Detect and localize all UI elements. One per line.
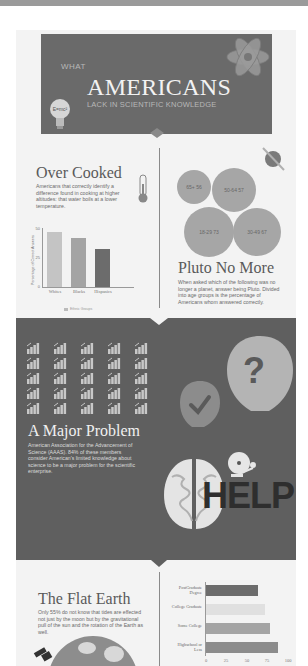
x-tick: 50 <box>241 658 253 663</box>
header-eyebrow: WHAT <box>61 62 86 71</box>
header-subtitle: LACK IN SCIENTIFIC KNOWLEDGE <box>87 100 216 109</box>
y-axis-label: Percentage of Correct Answers <box>31 235 35 285</box>
help-text: HELP <box>202 475 294 517</box>
cooking-bar-chart: Percentage of Correct Answers 50 25 0 Wh… <box>30 224 136 300</box>
question-mark: ? <box>243 350 265 392</box>
major-problem-title: A Major Problem <box>28 422 140 440</box>
flat-earth-title: The Flat Earth <box>38 590 130 608</box>
bar-postgraduate <box>206 585 258 596</box>
education-bar-chart: PostGraduate Degree College Graduate Som… <box>170 580 296 666</box>
thermometer-icon <box>137 174 149 204</box>
over-cooked-body: Americans that correctly identify a diff… <box>36 183 134 209</box>
bubble-65plus: 65+ 56 <box>177 170 211 204</box>
bar-hispanics <box>95 249 110 287</box>
x-tick: 25 <box>220 658 232 663</box>
y-tick: 50 <box>30 226 40 231</box>
bar-highschool <box>206 642 278 653</box>
bubble-30-49: 30-49 67 <box>233 208 281 256</box>
planet-icon <box>260 146 286 172</box>
bar-blacks <box>71 238 86 287</box>
header-title: AMERICANS <box>87 74 231 101</box>
section-divider <box>159 148 160 308</box>
category-label: PostGraduate Degree <box>170 585 202 595</box>
bar-college-graduate <box>206 604 265 615</box>
flat-earth-body: Only 55% do not know that tides are effe… <box>38 609 144 635</box>
y-tick: 0 <box>30 284 40 289</box>
atom-icon <box>225 34 271 80</box>
bar-whites <box>47 232 62 287</box>
category-label: Highschool or Less <box>170 642 202 652</box>
head-check-icon <box>178 379 222 429</box>
pluto-body: When asked which of the following was no… <box>178 279 284 305</box>
legend-label: Ethnic Groups <box>70 307 92 311</box>
chart-icon-grid <box>27 342 157 422</box>
section-divider <box>159 572 160 666</box>
x-tick: 100 <box>282 658 294 663</box>
satellite-icon <box>32 644 58 666</box>
y-tick: 25 <box>30 255 40 260</box>
category-label: Blacks <box>66 289 92 294</box>
legend-swatch <box>64 308 68 311</box>
y-axis <box>42 228 43 287</box>
lightbulb-icon: E=mc² <box>47 98 73 130</box>
svg-text:E=mc²: E=mc² <box>53 106 68 112</box>
x-tick: 75 <box>261 658 273 663</box>
bubble-50-64: 50-64 57 <box>212 168 256 212</box>
category-label: Some College <box>170 623 202 628</box>
over-cooked-title: Over Cooked <box>36 164 122 182</box>
x-tick: 0 <box>200 658 212 663</box>
bar-some-college <box>206 623 270 634</box>
chart-legend: Ethnic Groups <box>64 307 92 311</box>
category-label: Hispanics <box>90 289 116 294</box>
category-label: College Graduate <box>170 604 202 609</box>
pluto-title: Pluto No More <box>178 259 274 277</box>
major-problem-body: American Association for the Advancement… <box>28 442 140 475</box>
bubble-18-29: 18-29 73 <box>184 207 234 257</box>
x-axis <box>42 287 134 288</box>
category-label: Whites <box>42 289 68 294</box>
top-bar <box>0 0 308 6</box>
